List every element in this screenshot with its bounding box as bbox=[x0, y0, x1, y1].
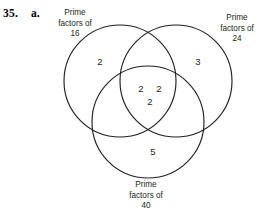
venn-region-only-40: 5 bbox=[146, 147, 160, 157]
venn-caption-set-40: Prime factors of 40 bbox=[113, 180, 179, 212]
venn-region-inter-16-24: 2 bbox=[134, 84, 148, 94]
venn-caption-set-16: Prime factors of 16 bbox=[44, 8, 106, 40]
venn-region-only-24: 3 bbox=[191, 57, 205, 67]
venn-region-inter-24-40: 2 bbox=[152, 84, 166, 94]
venn-circle-set-40 bbox=[92, 66, 204, 178]
exercise-figure: 35. a. 2 3 5 2 2 2 Prime factors of 16 P… bbox=[0, 0, 267, 213]
venn-region-only-16: 2 bbox=[93, 57, 107, 67]
venn-caption-set-24: Prime factors of 24 bbox=[207, 13, 267, 45]
venn-region-inter-all: 2 bbox=[143, 97, 157, 107]
